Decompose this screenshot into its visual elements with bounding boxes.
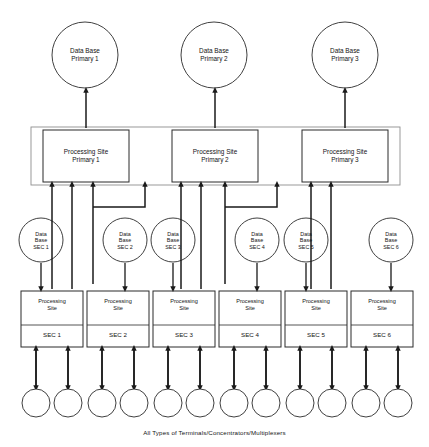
terminal-circle-6[interactable]: [186, 389, 214, 417]
primary-site-boxes: [43, 130, 388, 182]
secondary-site-box-1[interactable]: [21, 291, 83, 347]
diagram-canvas: [0, 0, 429, 447]
terminal-circle-11[interactable]: [352, 389, 380, 417]
terminal-circle-1[interactable]: [22, 389, 50, 417]
terminal-circle-9[interactable]: [286, 389, 314, 417]
secondary-database-circle-5[interactable]: [284, 218, 328, 262]
terminal-circle-7[interactable]: [220, 389, 248, 417]
cross-link-4: [225, 184, 277, 207]
terminal-circle-2[interactable]: [54, 389, 82, 417]
terminal-circle-5[interactable]: [154, 389, 182, 417]
primary-database-circle-3[interactable]: [312, 22, 378, 88]
terminal-circle-10[interactable]: [318, 389, 346, 417]
secondary-site-boxes: [21, 291, 413, 347]
terminal-circle-4[interactable]: [120, 389, 148, 417]
secondary-site-box-2[interactable]: [87, 291, 149, 347]
secondary-database-circle-1[interactable]: [19, 218, 63, 262]
primary-site-box-3[interactable]: [302, 130, 388, 182]
terminal-circle-3[interactable]: [88, 389, 116, 417]
secondary-database-circles: [19, 218, 413, 262]
primary-database-circles: [52, 22, 378, 88]
network-architecture-diagram: Data Base Primary 1Data Base Primary 2Da…: [0, 0, 429, 447]
terminal-circles: [22, 389, 412, 417]
primary-database-circle-2[interactable]: [181, 22, 247, 88]
primary-site-box-1[interactable]: [43, 130, 129, 182]
secondary-site-box-5[interactable]: [285, 291, 347, 347]
secondary-site-box-4[interactable]: [219, 291, 281, 347]
secondary-database-circle-4[interactable]: [235, 218, 279, 262]
primary-database-circle-1[interactable]: [52, 22, 118, 88]
terminal-circle-8[interactable]: [252, 389, 280, 417]
secondary-database-circle-2[interactable]: [103, 218, 147, 262]
primary-site-box-2[interactable]: [172, 130, 258, 182]
secondary-site-box-3[interactable]: [153, 291, 215, 347]
secondary-site-box-6[interactable]: [351, 291, 413, 347]
primary-db-uplinks: [86, 90, 345, 128]
terminal-circle-12[interactable]: [384, 389, 412, 417]
secondary-database-circle-3[interactable]: [151, 218, 195, 262]
terminal-links: [36, 348, 398, 388]
secondary-database-circle-6[interactable]: [369, 218, 413, 262]
cross-link-2: [93, 184, 145, 207]
